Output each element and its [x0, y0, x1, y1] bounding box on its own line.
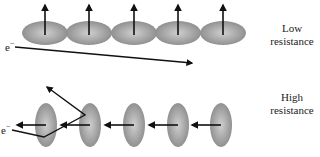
- electron-label-bottom: e−: [1, 122, 10, 136]
- label-line: High: [262, 91, 320, 104]
- electron-charge: −: [10, 39, 15, 48]
- top-atom-row: [22, 5, 246, 45]
- electron-label-top: e−: [5, 39, 14, 53]
- high-resistance-label: High resistance: [262, 91, 320, 117]
- electron-charge: −: [6, 122, 11, 131]
- label-line: resistance: [262, 104, 320, 117]
- label-line: resistance: [262, 35, 320, 48]
- label-line: Low: [262, 22, 320, 35]
- electron-path-arrow: [15, 47, 192, 63]
- bottom-atom-row: [17, 103, 232, 147]
- low-resistance-label: Low resistance: [262, 22, 320, 48]
